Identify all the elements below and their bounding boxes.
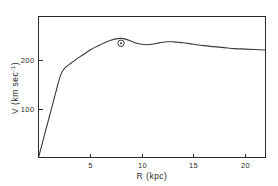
y-tick-label-100: 100 [21,105,35,114]
y-axis-title: V (km sec-1) [10,62,20,114]
x-axis-title: R (kpc) [137,171,168,181]
x-tick-label-10: 10 [138,161,147,170]
chart-figure: 5101520 100200 R (kpc) V (km sec-1) [0,0,278,186]
x-axis-tick-labels: 5101520 [88,161,250,170]
x-axis-ticks [91,154,246,158]
x-tick-label-15: 15 [189,161,198,170]
sun-symbol-icon [118,40,124,46]
y-axis-title-main: V (km sec [10,71,20,114]
y-axis-ticks [39,61,43,110]
x-tick-label-20: 20 [241,161,250,170]
y-tick-label-200: 200 [21,56,35,65]
y-axis-tick-labels: 100200 [21,56,35,114]
rotation-curve-line [39,38,266,157]
y-axis-title-tail: ) [10,62,20,65]
x-tick-label-5: 5 [88,161,93,170]
rotation-curve-plot: 5101520 100200 R (kpc) V (km sec-1) [0,0,278,186]
